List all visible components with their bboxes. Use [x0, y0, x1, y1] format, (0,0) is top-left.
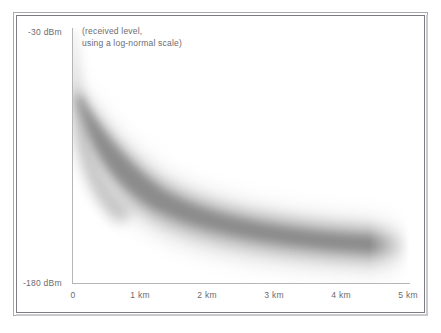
lognormal-band-svg: [72, 28, 410, 283]
lognormal-band: [72, 28, 410, 283]
x-tick-5km: 5 km: [398, 290, 417, 300]
annotation-line-2: using a log-normal scale): [82, 38, 182, 50]
x-tick-1km: 1 km: [130, 290, 149, 300]
plot-area: -30 dBm -180 dBm (received level, using …: [0, 0, 441, 333]
y-axis-bottom-label: -180 dBm: [23, 278, 62, 288]
y-axis-top-label: -30 dBm: [28, 27, 62, 37]
y-axis-line: [72, 28, 73, 283]
x-tick-2km: 2 km: [197, 290, 216, 300]
figure-canvas: -30 dBm -180 dBm (received level, using …: [0, 0, 441, 333]
plot-annotation: (received level, using a log-normal scal…: [82, 26, 182, 49]
x-tick-4km: 4 km: [331, 290, 350, 300]
annotation-line-1: (received level,: [82, 26, 182, 38]
x-tick-3km: 3 km: [264, 290, 283, 300]
x-tick-0: 0: [71, 290, 76, 300]
x-axis-line: [72, 283, 410, 284]
